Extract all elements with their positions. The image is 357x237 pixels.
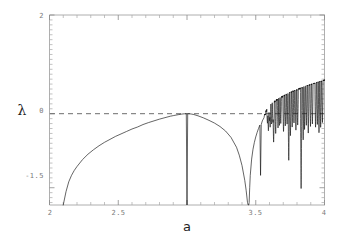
x-tick-label-4: 4 [322, 209, 327, 217]
y-tick-label-zero: 0 [39, 107, 44, 115]
lyapunov-exponent-chart: 2 0 -1.5 2 2.5 3.5 4 λ a [0, 0, 357, 237]
x-axis-title: a [183, 219, 191, 234]
y-tick-label-top: 2 [39, 12, 44, 20]
x-tick-label-2: 2 [48, 209, 53, 217]
chart-svg: 2 0 -1.5 2 2.5 3.5 4 λ a [0, 0, 357, 237]
y-tick-label-neg: -1.5 [25, 172, 44, 180]
x-tick-label-2-5: 2.5 [111, 209, 125, 217]
x-tick-label-3-5: 3.5 [248, 209, 262, 217]
y-axis-title: λ [18, 102, 27, 118]
